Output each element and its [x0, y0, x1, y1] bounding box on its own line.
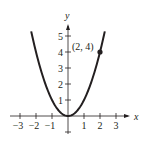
x-axis-arrow-icon [124, 114, 130, 118]
parabola-chart: −3−2−1123 12345 x y (2, 4) [0, 0, 145, 147]
x-axis-label: x [133, 111, 139, 122]
y-tick-labels: 12345 [58, 31, 63, 106]
axes [10, 24, 130, 134]
y-axis-arrow-icon [66, 24, 70, 30]
x-tick-label: −2 [29, 120, 40, 131]
y-tick-label: 5 [58, 31, 63, 42]
point-label: (2, 4) [72, 41, 94, 53]
y-tick-label: 1 [58, 95, 63, 106]
x-tick-label: −1 [45, 120, 56, 131]
y-tick-label: 3 [58, 63, 63, 74]
x-tick-label: 1 [82, 120, 87, 131]
x-tick-label: −3 [13, 120, 24, 131]
point-marker [97, 49, 102, 54]
x-tick-label: 3 [114, 120, 119, 131]
x-tick-label: 2 [98, 120, 103, 131]
y-axis-label: y [64, 10, 70, 21]
y-tick-label: 4 [58, 47, 63, 58]
y-tick-label: 2 [58, 79, 63, 90]
x-tick-labels: −3−2−1123 [13, 120, 119, 131]
